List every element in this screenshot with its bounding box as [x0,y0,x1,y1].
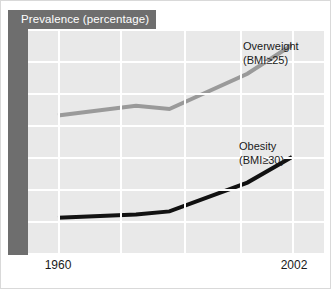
axis-side-band [8,10,28,255]
xtick-label-2002: 2002 [281,258,308,272]
gridline-horizontal-10 [28,221,324,223]
gridline-vertical-3 [184,29,186,255]
gridline-horizontal-0 [28,253,324,255]
xtick-label-1960: 1960 [45,258,72,272]
gridline-horizontal-70 [28,29,324,31]
series-annotation-obesity: Obesity (BMI≥30) [239,140,284,167]
gridline-vertical-2 [120,29,122,255]
series-annotation-overweight: Overweight (BMI≥25) [243,40,299,67]
gridline-horizontal-20 [28,189,324,191]
gridline-vertical-1 [58,29,60,255]
series-annotation-obesity-line1: Obesity [239,140,284,154]
gridline-horizontal-40 [28,125,324,127]
series-annotation-obesity-line2: (BMI≥30) [239,154,284,168]
series-annotation-overweight-line2: (BMI≥25) [243,54,299,68]
chart-figure: Prevalence (percentage) 0 10 20 [0,0,332,290]
gridline-horizontal-50 [28,93,324,95]
chart-title: Prevalence (percentage) [14,10,156,29]
series-annotation-overweight-line1: Overweight [243,40,299,54]
